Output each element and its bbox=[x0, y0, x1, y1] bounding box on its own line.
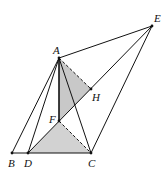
label-f: F bbox=[48, 113, 56, 125]
segment-ae bbox=[59, 26, 152, 58]
segment-ce bbox=[91, 26, 152, 153]
geometry-figure: A B C D E F H bbox=[0, 0, 168, 180]
point-a bbox=[58, 57, 61, 60]
point-d bbox=[27, 152, 30, 155]
label-b: B bbox=[8, 157, 15, 169]
point-e bbox=[151, 25, 154, 28]
label-d: D bbox=[23, 157, 32, 169]
label-e: E bbox=[153, 12, 161, 24]
point-h bbox=[90, 88, 93, 91]
label-h: H bbox=[91, 91, 101, 103]
label-c: C bbox=[88, 157, 96, 169]
shaded-triangle-afh bbox=[59, 58, 91, 121]
point-f bbox=[58, 120, 61, 123]
point-b bbox=[11, 152, 14, 155]
point-c bbox=[90, 152, 93, 155]
label-a: A bbox=[52, 44, 60, 56]
